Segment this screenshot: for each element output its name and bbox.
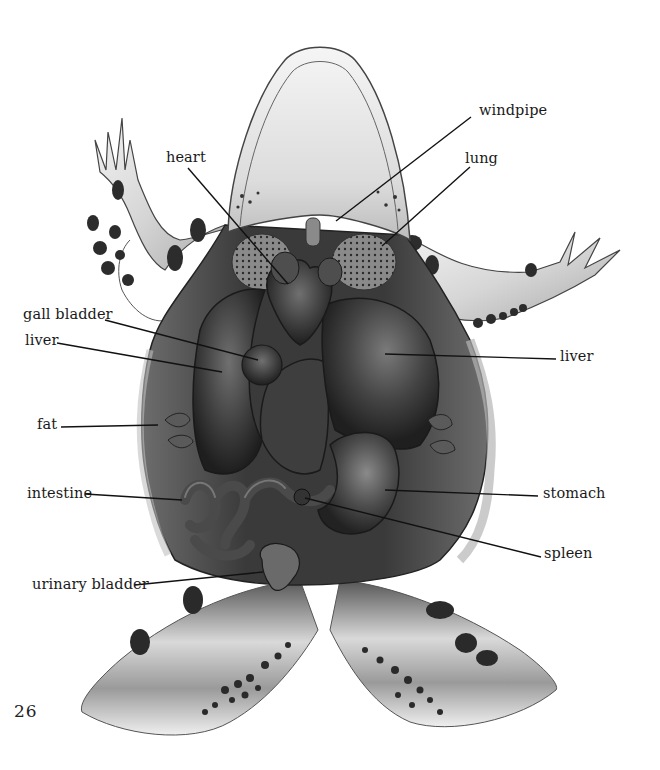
label-windpipe: windpipe (479, 103, 547, 118)
label-fat: fat (37, 417, 57, 432)
frog-dissection-figure: heartwindpipelunggall bladderliverliverf… (0, 0, 660, 770)
label-spleen: spleen (544, 546, 592, 561)
label-liver-right: liver (560, 349, 593, 364)
windpipe (306, 218, 320, 246)
label-urinary-bladder: urinary bladder (32, 577, 149, 592)
head (228, 47, 410, 240)
page-number: 26 (14, 701, 38, 721)
label-intestine: intestine (27, 486, 92, 501)
spleen (294, 489, 310, 505)
label-lung: lung (465, 151, 498, 166)
label-heart: heart (166, 150, 206, 165)
label-liver-left: liver (25, 333, 58, 348)
gall-bladder (242, 345, 282, 385)
frog-illustration (0, 0, 660, 770)
hind-legs (81, 580, 556, 735)
label-stomach: stomach (543, 486, 606, 501)
label-gall-bladder: gall bladder (23, 307, 113, 322)
